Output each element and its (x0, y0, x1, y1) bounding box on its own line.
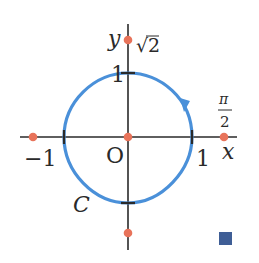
label-sqrt2: √2 (136, 34, 160, 56)
label-pi-over-2-numerator: π (218, 91, 229, 107)
point-neg1 (29, 133, 38, 142)
point-origin (124, 133, 133, 142)
y-axis-label: y (107, 26, 121, 51)
tick-label-x-pos: 1 (196, 146, 210, 171)
point-bottom (124, 229, 133, 238)
direction-arrow-icon (180, 98, 190, 112)
tick-label-y-pos: 1 (111, 62, 125, 87)
diagram-figure: y x O 1 −1 1 √2 π 2 C (0, 0, 259, 263)
end-marker-square (219, 232, 232, 245)
curve-label-c: C (73, 192, 90, 217)
x-axis-label: x (222, 139, 235, 164)
label-pi-over-2-denominator: 2 (220, 113, 230, 131)
tick-label-x-neg: −1 (24, 146, 56, 171)
point-sqrt2 (124, 36, 133, 45)
origin-label: O (106, 143, 124, 168)
